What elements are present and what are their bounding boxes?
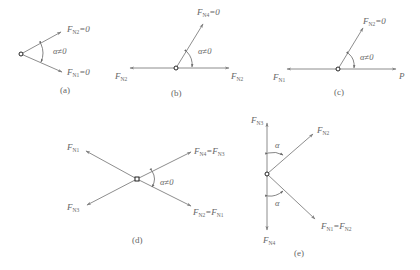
label-fn1-eq-fn2: FN1=FN2 bbox=[321, 222, 352, 233]
node-joint bbox=[135, 177, 139, 181]
angle-arc-icon bbox=[152, 171, 155, 187]
angle-label: α≠0 bbox=[198, 47, 211, 56]
diagram-b bbox=[130, 24, 229, 70]
caption-d: (d) bbox=[132, 236, 143, 245]
label-fn2-right: FN2 bbox=[231, 72, 243, 83]
caption-e: (e) bbox=[294, 249, 304, 258]
angle-label-lower: α bbox=[275, 199, 279, 208]
node-joint bbox=[174, 66, 178, 70]
label-fn3: FN3 bbox=[67, 203, 79, 214]
force-arrow-fn3 bbox=[87, 179, 137, 205]
caption-b: (b) bbox=[171, 89, 182, 98]
node-joint bbox=[19, 52, 23, 56]
node-joint bbox=[336, 67, 340, 71]
angle-arc-icon-upper bbox=[268, 152, 283, 155]
force-arrow-fn1 bbox=[86, 151, 137, 179]
label-fn4: FN4 bbox=[263, 236, 275, 247]
angle-arc-icon-lower bbox=[268, 191, 283, 196]
label-fn1: FN1 bbox=[273, 73, 285, 84]
force-arrow-fn2 bbox=[338, 28, 363, 69]
diagram-e bbox=[265, 123, 315, 230]
diagram-d bbox=[86, 151, 191, 206]
label-fn4-zero: FN4=0 bbox=[197, 8, 220, 19]
angle-label: α≠0 bbox=[53, 47, 66, 56]
angle-label: α≠0 bbox=[160, 178, 173, 187]
label-fn2-zero: FN2=0 bbox=[67, 25, 90, 36]
label-fn3: FN3 bbox=[251, 116, 263, 127]
node-joint bbox=[265, 172, 269, 176]
label-fn2-zero: FN2=0 bbox=[363, 17, 386, 28]
angle-arc-icon bbox=[349, 54, 354, 68]
angle-label: α≠0 bbox=[360, 53, 373, 62]
label-fn2: FN2 bbox=[317, 126, 329, 137]
label-p: P bbox=[399, 72, 405, 81]
label-fn1-zero: FN1=0 bbox=[67, 68, 90, 79]
caption-c: (c) bbox=[334, 88, 344, 97]
label-fn2-eq-fn1: FN2=FN1 bbox=[193, 208, 224, 219]
angle-label-upper: α bbox=[275, 141, 279, 150]
truss-node-diagrams bbox=[0, 0, 420, 270]
force-arrow-fn4 bbox=[137, 152, 191, 179]
caption-a: (a) bbox=[60, 86, 70, 95]
label-fn4-eq-fn3: FN4=FN3 bbox=[194, 147, 225, 158]
force-arrow-fn1 bbox=[21, 54, 62, 72]
angle-arc-icon bbox=[41, 44, 43, 62]
force-arrow-fn2 bbox=[267, 134, 313, 174]
label-fn2-left: FN2 bbox=[115, 72, 127, 83]
diagram-c bbox=[287, 28, 396, 71]
angle-arc-icon bbox=[187, 52, 192, 67]
label-fn1: FN1 bbox=[67, 143, 79, 154]
force-arrow-fn1 bbox=[267, 174, 315, 219]
